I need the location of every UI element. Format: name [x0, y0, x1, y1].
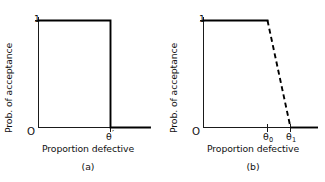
origin-label-b: O: [192, 126, 200, 137]
y-axis-label-a: Prob. of acceptance: [3, 43, 14, 133]
x-tick-label-theta-zero: θ0: [263, 131, 273, 142]
caption-a: (a): [46, 161, 130, 172]
operating-characteristic-figure: Prob. of acceptance O 1 θ′ Proportion de…: [0, 0, 325, 182]
theta-glyph-one: θ: [286, 131, 292, 142]
panel-a-plot: [0, 0, 163, 182]
theta-glyph-zero: θ: [263, 131, 269, 142]
theta-glyph-a: θ: [106, 131, 112, 142]
panel-a: Prob. of acceptance O 1 θ′ Proportion de…: [0, 0, 163, 182]
x-axis-label-b: Proportion defective: [191, 143, 315, 154]
y-tick-label-one-a: 1: [34, 13, 40, 24]
y-axis-label-b: Prob. of acceptance: [168, 43, 179, 133]
y-tick-label-one-b: 1: [199, 13, 205, 24]
x-axis-label-a: Proportion defective: [26, 143, 150, 154]
x-tick-label-theta-one: θ1: [286, 131, 296, 142]
x-tick-label-theta-prime: θ′: [106, 131, 114, 142]
ideal-oc-step-curve: [39, 21, 151, 128]
panel-b-plot: [162, 0, 325, 182]
origin-label-a: O: [27, 126, 35, 137]
panel-b: Prob. of acceptance O 1 θ0 θ1 Proportion…: [162, 0, 325, 182]
caption-b: (b): [211, 161, 295, 172]
prime-glyph-a: ′: [112, 128, 114, 139]
transition-ramp-segment: [268, 21, 291, 128]
